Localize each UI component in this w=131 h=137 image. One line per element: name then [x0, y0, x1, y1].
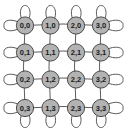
node-3-3[interactable]: 3,3	[92, 99, 109, 116]
edge-col1	[49, 26, 51, 109]
node-label: 3,3	[96, 104, 106, 113]
node-3-2[interactable]: 3,2	[92, 71, 109, 88]
edge-col3	[100, 26, 102, 109]
node-label: 3,0	[96, 21, 106, 30]
node-label: 2,3	[71, 104, 81, 113]
edge-row3	[25, 107, 101, 109]
node-0-1[interactable]: 0,1	[16, 44, 33, 61]
node-1-3[interactable]: 1,3	[42, 99, 59, 116]
node-label: 0,0	[20, 21, 30, 30]
edge-row1	[25, 51, 101, 53]
node-2-1[interactable]: 2,1	[67, 44, 84, 61]
node-1-0[interactable]: 1,0	[42, 17, 59, 34]
edge-row2	[25, 78, 101, 80]
node-1-1[interactable]: 1,1	[42, 44, 59, 61]
network-canvas: 0,0 1,0 2,0 3,0 0,1 1,1	[0, 0, 131, 137]
node-label: 1,2	[45, 75, 55, 84]
node-label: 1,3	[45, 104, 55, 113]
node-label: 2,1	[71, 48, 81, 57]
node-label: 0,2	[20, 75, 30, 84]
edge-col0	[24, 26, 26, 109]
node-label: 0,1	[20, 48, 30, 57]
node-3-1[interactable]: 3,1	[92, 44, 109, 61]
edge-col2	[75, 26, 77, 109]
edge-row0	[25, 24, 101, 26]
edge-group	[24, 24, 102, 108]
node-2-3[interactable]: 2,3	[67, 99, 84, 116]
node-label: 0,3	[20, 104, 30, 113]
node-label: 3,1	[96, 48, 106, 57]
node-2-0[interactable]: 2,0	[67, 17, 84, 34]
node-1-2[interactable]: 1,2	[42, 71, 59, 88]
node-0-0[interactable]: 0,0	[16, 17, 33, 34]
node-label: 3,2	[96, 75, 106, 84]
node-label: 2,2	[71, 75, 81, 84]
node-label: 2,0	[71, 21, 81, 30]
node-3-0[interactable]: 3,0	[92, 17, 109, 34]
node-0-3[interactable]: 0,3	[16, 99, 33, 116]
torus-network-diagram: 0,0 1,0 2,0 3,0 0,1 1,1	[0, 0, 131, 137]
node-label: 1,0	[45, 21, 55, 30]
node-2-2[interactable]: 2,2	[67, 71, 84, 88]
node-group: 0,0 1,0 2,0 3,0 0,1 1,1	[16, 17, 109, 117]
node-label: 1,1	[45, 48, 55, 57]
node-0-2[interactable]: 0,2	[16, 71, 33, 88]
